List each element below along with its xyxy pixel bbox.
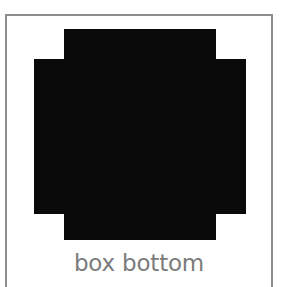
- box-bottom-shape-svg: [0, 0, 290, 287]
- figure-screenshot: box bottom: [0, 0, 290, 287]
- figure-caption: box bottom: [5, 248, 273, 278]
- box-bottom-cross-path: [34, 29, 246, 240]
- box-bottom-shape: [0, 0, 290, 287]
